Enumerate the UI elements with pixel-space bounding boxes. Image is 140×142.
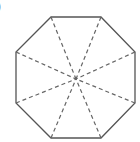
dash-line-2 <box>76 17 101 79</box>
dash-line-7 <box>16 79 76 103</box>
dash-line-4 <box>76 79 135 103</box>
dash-line-5 <box>76 79 101 138</box>
octagon-diagram <box>0 0 140 142</box>
symmetry-lines <box>16 17 135 138</box>
dash-line-6 <box>51 79 76 138</box>
